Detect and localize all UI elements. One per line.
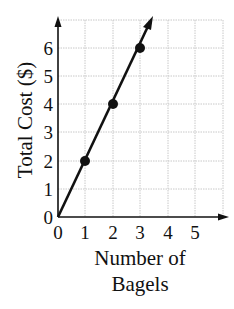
x-tick: 0 xyxy=(53,222,63,243)
x-axis-arrow-icon xyxy=(218,214,229,221)
data-point xyxy=(108,99,118,109)
x-tick-labels: 0 1 2 3 4 5 xyxy=(53,222,200,243)
data-point xyxy=(80,156,90,166)
y-tick: 0 xyxy=(44,207,54,228)
x-axis-label-line2: Bagels xyxy=(111,272,168,296)
line-arrow-icon xyxy=(143,16,153,30)
y-tick: 1 xyxy=(44,179,54,200)
y-axis-arrow-icon xyxy=(55,16,62,27)
y-tick: 5 xyxy=(44,66,54,87)
y-tick-labels: 0 1 2 3 4 5 6 xyxy=(44,38,54,228)
y-axis-label: Total Cost ($) xyxy=(13,62,37,178)
x-axis-label-line1: Number of xyxy=(94,246,186,270)
y-tick: 4 xyxy=(44,94,54,115)
data-series xyxy=(58,16,153,217)
x-tick: 4 xyxy=(163,222,173,243)
y-tick: 3 xyxy=(44,122,54,143)
cost-line xyxy=(58,22,150,217)
chart: 0 1 2 3 4 5 6 0 1 2 3 4 5 Number of Bage… xyxy=(0,0,234,309)
y-tick: 2 xyxy=(44,151,54,172)
data-point xyxy=(135,43,145,53)
x-tick: 3 xyxy=(135,222,145,243)
x-tick: 5 xyxy=(190,222,200,243)
y-tick: 6 xyxy=(44,38,54,59)
x-tick: 1 xyxy=(80,222,90,243)
x-tick: 2 xyxy=(108,222,118,243)
